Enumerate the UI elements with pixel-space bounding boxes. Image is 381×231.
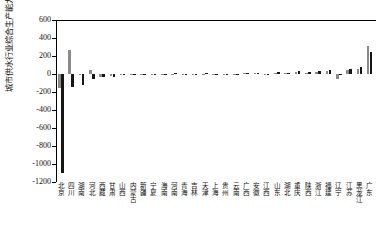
y-tick-label: -600 (11, 124, 51, 132)
x-axis-labels: 北京四川湖南河北西藏甘肃山西内蒙古新疆宁夏海南河南青海吉林天津上海贵州云南广西安… (56, 183, 376, 231)
x-tick-label: 贵州 (222, 183, 229, 197)
y-tick-mark (52, 146, 56, 147)
bar (113, 74, 116, 77)
x-tick-label: 河北 (89, 183, 96, 197)
bar-group (253, 20, 263, 182)
bar (185, 74, 188, 75)
bar-group (201, 20, 211, 182)
x-tick-label: 新疆 (140, 183, 147, 197)
x-tick-label: 江西 (263, 183, 270, 197)
x-tick-label: 青海 (181, 183, 188, 197)
bar-group (191, 20, 201, 182)
y-tick-label: -200 (11, 88, 51, 96)
y-tick-mark (52, 92, 56, 93)
bar (339, 74, 342, 75)
y-tick-mark (52, 74, 56, 75)
bar-group (242, 20, 252, 182)
bar (277, 72, 280, 74)
bar-group (119, 20, 129, 182)
y-tick-mark (52, 110, 56, 111)
bar-group (222, 20, 232, 182)
x-tick-label: 西藏 (99, 183, 106, 197)
bar-group (325, 20, 335, 182)
bar (318, 71, 321, 74)
chart-root: 城市供水行业综合生产能力(万立方米/日) 6004002000-200-400-… (0, 0, 381, 231)
y-tick-label: -1000 (11, 160, 51, 168)
bar (133, 74, 136, 75)
x-tick-label: 吉林 (191, 183, 198, 197)
y-tick-label: 200 (11, 52, 51, 60)
y-tick-label: 0 (11, 70, 51, 78)
x-tick-label: 浙江 (315, 183, 322, 197)
bar (226, 74, 229, 75)
bar (195, 74, 198, 75)
y-tick-mark (52, 56, 56, 57)
x-tick-label: 重庆 (294, 183, 301, 197)
y-tick-label: -800 (11, 142, 51, 150)
x-tick-label: 海南 (161, 183, 168, 197)
bar-group (108, 20, 118, 182)
y-tick-mark (52, 128, 56, 129)
bar (298, 71, 301, 74)
bar-group (273, 20, 283, 182)
bar (349, 69, 352, 74)
bar-group (180, 20, 190, 182)
x-tick-label: 天津 (202, 183, 209, 197)
x-tick-label: 广东 (366, 183, 373, 197)
bar-group (78, 20, 88, 182)
bar-group (150, 20, 160, 182)
bar-group (304, 20, 314, 182)
x-tick-label: 湖北 (284, 183, 291, 197)
bar (308, 72, 311, 74)
y-tick-mark (52, 20, 56, 21)
bar (123, 74, 126, 75)
bar-group (232, 20, 242, 182)
bar (329, 70, 332, 74)
y-tick-label: 600 (11, 16, 51, 24)
bar-group (170, 20, 180, 182)
x-tick-label: 宁夏 (150, 183, 157, 197)
x-tick-label: 甘肃 (109, 183, 116, 197)
bar (154, 74, 157, 75)
bar (370, 52, 373, 75)
x-tick-label: 四川 (68, 183, 75, 197)
bar-group (67, 20, 77, 182)
bar (360, 67, 363, 74)
x-tick-label: 山东 (274, 183, 281, 197)
x-tick-label: 云南 (233, 183, 240, 197)
bar-group (263, 20, 273, 182)
bar-group (57, 20, 67, 182)
bar-group (294, 20, 304, 182)
bar-group (88, 20, 98, 182)
bar-group (366, 20, 376, 182)
bar (92, 74, 95, 79)
plot-area: 6004002000-200-400-600-800-1000-1200 (56, 20, 376, 182)
bar (164, 74, 167, 75)
bar (257, 73, 260, 74)
x-tick-label: 河南 (171, 183, 178, 197)
bar-group (345, 20, 355, 182)
bar (267, 74, 270, 75)
x-tick-label: 安徽 (253, 183, 260, 197)
x-tick-label: 陕西 (305, 183, 312, 197)
bar-group (160, 20, 170, 182)
bar-group (211, 20, 221, 182)
x-tick-label: 江苏 (346, 183, 353, 197)
bar (174, 73, 177, 74)
y-tick-label: -400 (11, 106, 51, 114)
x-tick-label: 湖南 (78, 183, 85, 197)
y-tick-mark (52, 164, 56, 165)
bar (82, 74, 85, 85)
bar (68, 50, 71, 74)
bar (205, 73, 208, 74)
y-tick-label: -1200 (11, 178, 51, 186)
bar (236, 74, 239, 75)
x-tick-label: 内蒙古 (130, 183, 137, 203)
x-tick-label: 广西 (243, 183, 250, 197)
y-tick-mark (52, 38, 56, 39)
bar (143, 74, 146, 75)
bar-group (139, 20, 149, 182)
x-tick-label: 北京 (58, 183, 65, 197)
x-tick-label: 上海 (212, 183, 219, 197)
bar (287, 73, 290, 74)
